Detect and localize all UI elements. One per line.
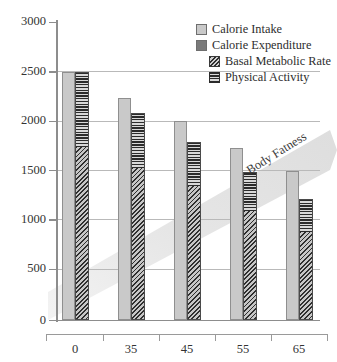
legend-item-physical-activity: Physical Activity — [196, 70, 331, 85]
segment-physical-activity-65 — [300, 200, 312, 232]
legend-swatch-hatch-icon — [209, 56, 220, 67]
bar-calorie-expenditure-0 — [75, 72, 89, 320]
y-axis-label-3000: 3000 — [2, 15, 46, 27]
legend-swatch-solid-light-icon — [196, 24, 207, 35]
x-tick-left-end — [46, 334, 47, 341]
bar-calorie-expenditure-55 — [243, 172, 257, 320]
bar-calorie-expenditure-35 — [131, 113, 145, 320]
legend-label-calorie-intake: Calorie Intake — [212, 23, 282, 36]
y-axis-label-1500: 1500 — [2, 164, 46, 176]
segment-physical-activity-35 — [132, 114, 144, 168]
segment-physical-activity-55 — [244, 173, 256, 211]
x-tick-35 — [159, 334, 160, 341]
y-tick-2000 — [49, 121, 56, 122]
y-tick-0 — [49, 320, 56, 321]
bar-calorie-intake-35 — [118, 98, 131, 321]
x-axis-label-55: 55 — [223, 342, 263, 357]
bar-calorie-intake-45 — [174, 121, 187, 320]
y-tick-3000 — [49, 22, 56, 23]
x-axis-tick-rail — [46, 334, 328, 335]
legend-label-calorie-expenditure: Calorie Expenditure — [212, 39, 311, 52]
legend-item-calorie-expenditure: Calorie Expenditure — [196, 38, 331, 53]
gridline-2000 — [56, 121, 320, 122]
x-axis-label-35: 35 — [111, 342, 151, 357]
x-tick-45 — [215, 334, 216, 341]
chart-legend: Calorie Intake Calorie Expenditure Basal… — [196, 22, 331, 86]
bar-calorie-expenditure-65 — [299, 199, 313, 320]
x-tick-55 — [271, 334, 272, 341]
segment-basal-metabolic-rate-45 — [188, 186, 200, 320]
x-tick-0 — [103, 334, 104, 341]
segment-physical-activity-0 — [76, 73, 88, 148]
x-axis-label-0: 0 — [55, 342, 95, 357]
y-axis-label-2500: 2500 — [2, 65, 46, 77]
bar-calorie-expenditure-45 — [187, 142, 201, 320]
legend-label-basal-metabolic-rate: Basal Metabolic Rate — [225, 55, 331, 68]
y-axis-label-1000: 1000 — [2, 213, 46, 225]
x-tick-right-end — [327, 334, 328, 341]
legend-swatch-solid-dark-icon — [196, 40, 207, 51]
x-axis-line — [56, 320, 320, 321]
calorie-balance-chart: 3000 2500 2000 1500 1000 500 0 0 35 45 5… — [0, 0, 337, 362]
y-axis-label-0: 0 — [2, 314, 46, 326]
y-tick-2500 — [49, 71, 56, 72]
bar-calorie-intake-0 — [62, 72, 75, 320]
legend-item-basal-metabolic-rate: Basal Metabolic Rate — [196, 54, 331, 69]
segment-basal-metabolic-rate-35 — [132, 168, 144, 320]
y-axis-label-2000: 2000 — [2, 114, 46, 126]
y-tick-1500 — [49, 170, 56, 171]
y-axis-line — [56, 20, 58, 322]
y-tick-1000 — [49, 219, 56, 220]
legend-item-calorie-intake: Calorie Intake — [196, 22, 331, 37]
bar-calorie-intake-65 — [286, 171, 299, 320]
segment-basal-metabolic-rate-55 — [244, 211, 256, 320]
x-axis-label-65: 65 — [279, 342, 319, 357]
segment-basal-metabolic-rate-0 — [76, 147, 88, 320]
segment-basal-metabolic-rate-65 — [300, 232, 312, 320]
legend-label-physical-activity: Physical Activity — [225, 71, 309, 84]
bar-calorie-intake-55 — [230, 148, 243, 320]
legend-swatch-checker-icon — [209, 72, 220, 83]
x-axis-label-45: 45 — [167, 342, 207, 357]
segment-physical-activity-45 — [188, 143, 200, 186]
y-axis-label-500: 500 — [2, 262, 46, 274]
y-tick-500 — [49, 269, 56, 270]
